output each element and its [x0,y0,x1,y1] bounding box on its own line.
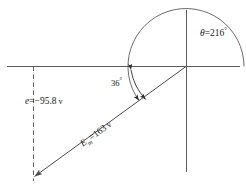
theta-value: 216 [210,28,224,38]
phasor-diagram: θ=216° 36° e=−95.8 v Em=163 v [0,0,246,190]
e-unit: v [58,96,62,106]
theta-angle-label: θ=216° [200,27,227,39]
angle-36-degree-sign: ° [120,76,123,83]
angle-36-label: 36° [111,77,122,87]
angle-36-value: 36 [111,78,120,88]
theta-degree-sign: ° [224,26,227,34]
e-value: −95.8 [35,96,57,106]
instantaneous-voltage-label: e=−95.8 v [25,97,63,107]
angle-36-arc [131,70,146,100]
